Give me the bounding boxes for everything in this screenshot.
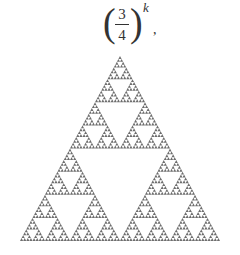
sierpinski-triangles	[20, 56, 220, 241]
sierpinski-path	[20, 56, 220, 241]
sierpinski-triangle-figure	[0, 0, 240, 255]
